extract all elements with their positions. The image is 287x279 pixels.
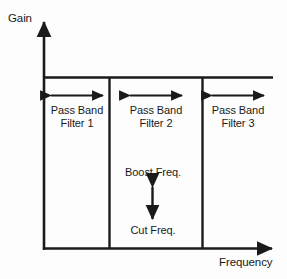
cut-freq-label: Cut Freq. xyxy=(103,224,203,237)
boost-freq-label: Boost Freq. xyxy=(103,166,203,179)
diagram-canvas xyxy=(0,0,287,279)
band-3-label-line2: Filter 3 xyxy=(188,117,287,130)
filter-band-diagram: Gain Frequency Pass Band Filter 1 Pass B… xyxy=(0,0,287,279)
band-3-label-line1: Pass Band xyxy=(188,104,287,117)
x-axis-label: Frequency xyxy=(219,256,272,269)
y-axis-label: Gain xyxy=(8,12,32,25)
band-3-label: Pass Band Filter 3 xyxy=(188,104,287,130)
